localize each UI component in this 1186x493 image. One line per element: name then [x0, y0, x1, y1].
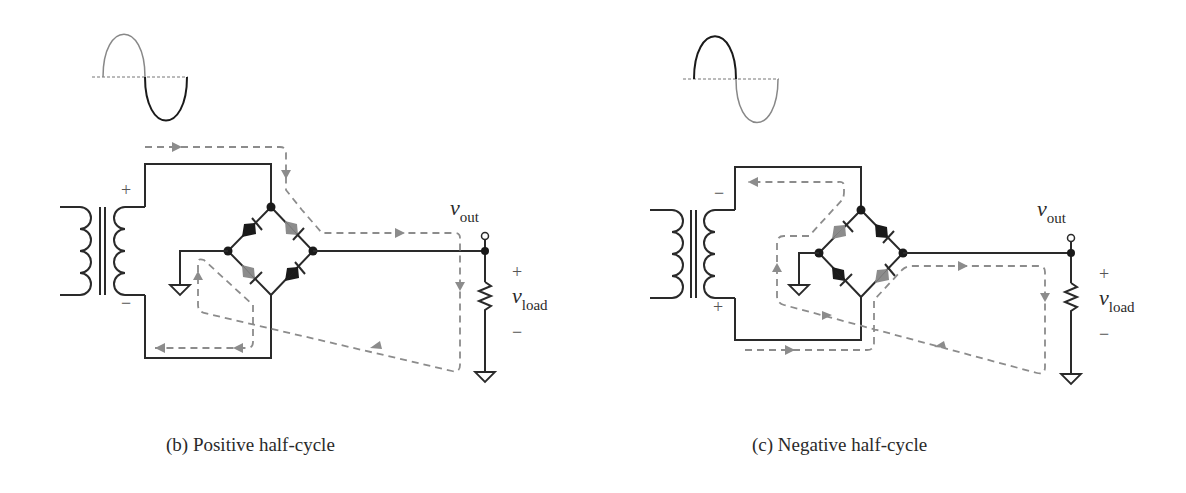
- load-minus-c: −: [1099, 324, 1109, 345]
- vout-label-b: vout: [450, 195, 479, 226]
- caption-b: (b) Positive half-cycle: [166, 434, 335, 456]
- current-path-b: [145, 142, 465, 371]
- secondary-top-polarity-c: −: [714, 183, 724, 204]
- caption-c: (c) Negative half-cycle: [752, 434, 927, 456]
- diode-bridge-b: [224, 203, 318, 296]
- panel-c-circuit: [650, 36, 1081, 384]
- transformer-c: [650, 210, 735, 298]
- vload-label-c: vload: [1099, 285, 1135, 316]
- ground-icon: [170, 285, 190, 295]
- bridge-rectifier-diagram: [0, 0, 1186, 493]
- sine-waveform-c: [683, 36, 779, 122]
- current-path-c: [745, 177, 1050, 373]
- load-plus-c: +: [1099, 264, 1109, 285]
- load-plus-b: +: [512, 262, 522, 283]
- transformer-b: [60, 207, 145, 295]
- diode-bridge-c: [815, 206, 908, 298]
- sine-waveform-b: [92, 34, 188, 120]
- load-minus-b: −: [512, 322, 522, 343]
- panel-b-circuit: [60, 34, 495, 382]
- load-resistor-b: [479, 282, 491, 372]
- ground-icon: [789, 285, 809, 295]
- vout-terminal: [482, 233, 489, 240]
- vout-label-c: vout: [1037, 196, 1066, 227]
- vload-label-b: vload: [512, 283, 548, 314]
- secondary-bottom-polarity-b: −: [121, 293, 131, 314]
- vout-terminal: [1068, 235, 1075, 242]
- ground-icon: [1061, 374, 1081, 384]
- secondary-top-polarity-b: +: [121, 180, 131, 201]
- ground-icon: [475, 372, 495, 382]
- load-resistor-c: [1065, 283, 1077, 374]
- secondary-bottom-polarity-c: +: [713, 297, 723, 318]
